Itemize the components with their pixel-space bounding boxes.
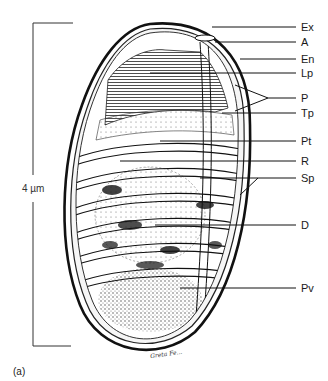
label-tubular-polaroplast: Tp [301,107,314,119]
label-ribosomes: R [301,155,309,167]
label-polar-tube: Pt [301,135,311,147]
label-lamellar-polaroplast: Lp [301,67,313,79]
panel-label: (a) [13,366,25,377]
spore-diagram [0,0,328,381]
label-diplokaryon: D [301,219,309,231]
label-sporoplasm: Sp [301,172,314,184]
scale-bar-label: 4 µm [22,183,44,194]
label-exospore: Ex [301,21,314,33]
anchoring-disc [195,35,215,41]
posterior-vacuole [98,268,202,332]
label-anchoring-disc: A [301,36,308,48]
label-posterior-vacuole: Pv [301,282,314,294]
label-polaroplast: P [301,92,308,104]
label-endospore: En [301,53,314,65]
